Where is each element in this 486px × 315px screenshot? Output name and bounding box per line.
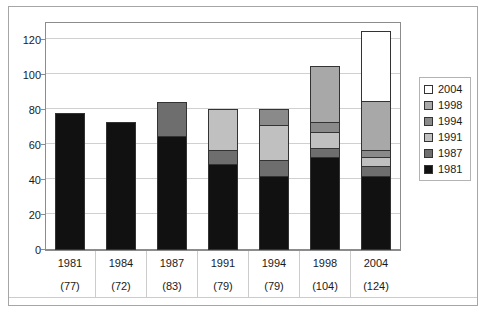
- x-tick-label-1998: 1998: [300, 251, 350, 274]
- legend-item-1987[interactable]: 1987: [424, 145, 467, 161]
- x-axis-bottom-rule: [9, 297, 477, 298]
- x-tick-sublabel-1987: (83): [147, 274, 197, 297]
- x-axis-column-1987: 1987(83): [146, 251, 197, 297]
- legend-swatch-1991: [424, 133, 433, 142]
- chart-legend: 200419981994199119871981: [419, 77, 471, 181]
- legend-label-1987: 1987: [438, 148, 462, 159]
- legend-swatch-1981: [424, 165, 433, 174]
- x-tick-sublabel-1984: (72): [96, 274, 146, 297]
- x-tick-sublabel-1981: (77): [45, 274, 95, 297]
- gridline-80: [46, 108, 400, 109]
- legend-swatch-2004: [424, 85, 433, 94]
- x-tick-sublabel-1994: (79): [249, 274, 299, 297]
- x-tick-label-1981: 1981: [45, 251, 95, 274]
- legend-label-1994: 1994: [438, 116, 462, 127]
- plot-area: [45, 22, 401, 250]
- x-axis-column-1994: 1994(79): [248, 251, 299, 297]
- gridline-100: [46, 73, 400, 74]
- legend-item-1981[interactable]: 1981: [424, 161, 467, 177]
- gridline-120: [46, 38, 400, 39]
- x-tick-sublabel-1991: (79): [198, 274, 248, 297]
- legend-item-1998[interactable]: 1998: [424, 97, 467, 113]
- x-tick-label-1987: 1987: [147, 251, 197, 274]
- y-axis-tick-marks: [0, 22, 45, 250]
- x-axis-column-2004: 2004(124): [350, 251, 401, 297]
- x-tick-sublabel-2004: (124): [351, 274, 401, 297]
- x-axis-column-1991: 1991(79): [197, 251, 248, 297]
- gridline-60: [46, 143, 400, 144]
- x-tick-label-1991: 1991: [198, 251, 248, 274]
- x-axis-column-1981: 1981(77): [45, 251, 95, 297]
- gridline-40: [46, 178, 400, 179]
- legend-item-1994[interactable]: 1994: [424, 113, 467, 129]
- legend-label-1998: 1998: [438, 100, 462, 111]
- legend-swatch-1998: [424, 101, 433, 110]
- legend-item-2004[interactable]: 2004: [424, 81, 467, 97]
- legend-label-2004: 2004: [438, 84, 462, 95]
- x-axis-label-table: 1981(77)1984(72)1987(83)1991(79)1994(79)…: [45, 251, 401, 297]
- x-tick-label-2004: 2004: [351, 251, 401, 274]
- x-tick-label-1984: 1984: [96, 251, 146, 274]
- legend-label-1981: 1981: [438, 164, 462, 175]
- stacked-column-chart: 020406080100120 1981(77)1984(72)1987(83)…: [0, 0, 486, 315]
- x-tick-label-1994: 1994: [249, 251, 299, 274]
- legend-swatch-1994: [424, 117, 433, 126]
- x-axis-column-1998: 1998(104): [299, 251, 350, 297]
- legend-swatch-1987: [424, 149, 433, 158]
- legend-label-1991: 1991: [438, 132, 462, 143]
- x-tick-sublabel-1998: (104): [300, 274, 350, 297]
- x-axis-column-1984: 1984(72): [95, 251, 146, 297]
- gridline-20: [46, 213, 400, 214]
- legend-item-1991[interactable]: 1991: [424, 129, 467, 145]
